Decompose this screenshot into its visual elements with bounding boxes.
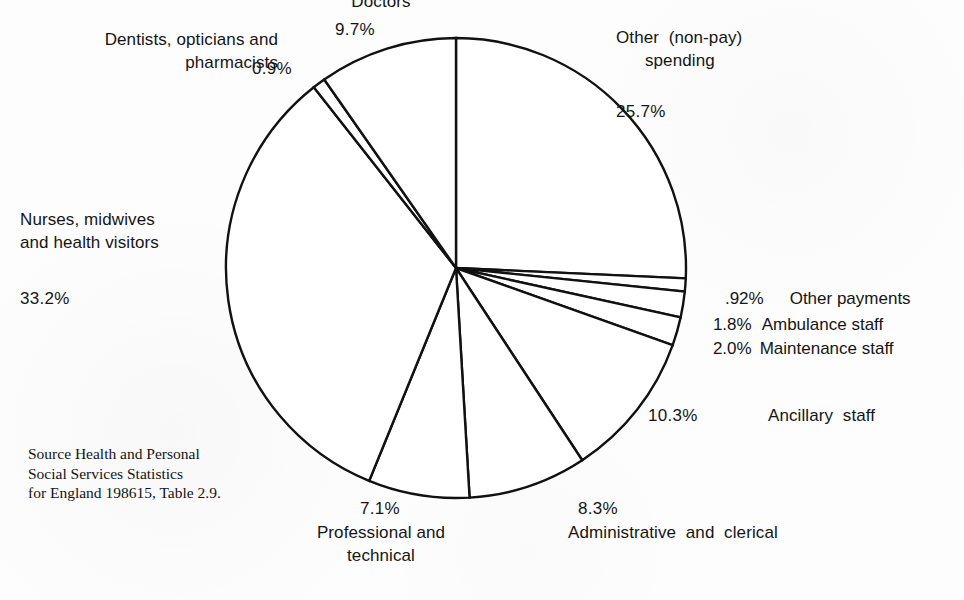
slice-row-maintenance-staff: 2.0%Maintenance staff bbox=[694, 314, 956, 383]
slice-label-administrative-and-clerical: Administrative and clerical bbox=[568, 521, 878, 544]
slice-label-dentists: Dentists, opticians and pharmacists bbox=[28, 28, 278, 74]
slice-label-ancillary-staff: Ancillary staff bbox=[768, 404, 948, 427]
slice-value-administrative-and-clerical: 8.3% bbox=[578, 497, 678, 520]
slice-value-dentists: 0.9% bbox=[252, 57, 342, 80]
slice-value-maintenance-staff: 2.0% bbox=[713, 337, 752, 360]
slice-label-doctors: Doctors bbox=[296, 0, 466, 13]
slice-value-nurses: 33.2% bbox=[20, 287, 140, 310]
source-note: Source Health and Personal Social Servic… bbox=[28, 444, 308, 503]
slice-value-doctors: 9.7% bbox=[300, 18, 410, 41]
slice-label-nurses: Nurses, midwives and health visitors bbox=[20, 208, 250, 254]
slice-label-other-non-pay-spending: Other (non-pay) spending bbox=[616, 26, 826, 72]
pie-slice bbox=[456, 38, 686, 278]
slice-value-other-non-pay-spending: 25.7% bbox=[616, 100, 776, 123]
slice-value-ancillary-staff: 10.3% bbox=[648, 404, 738, 427]
slice-label-professional-and-technical: Professional and technical bbox=[286, 521, 476, 567]
slice-label-maintenance-staff: Maintenance staff bbox=[760, 337, 894, 360]
slice-value-professional-and-technical: 7.1% bbox=[330, 497, 430, 520]
pie-chart-figure: Doctors 9.7% Dentists, opticians and pha… bbox=[0, 0, 964, 600]
